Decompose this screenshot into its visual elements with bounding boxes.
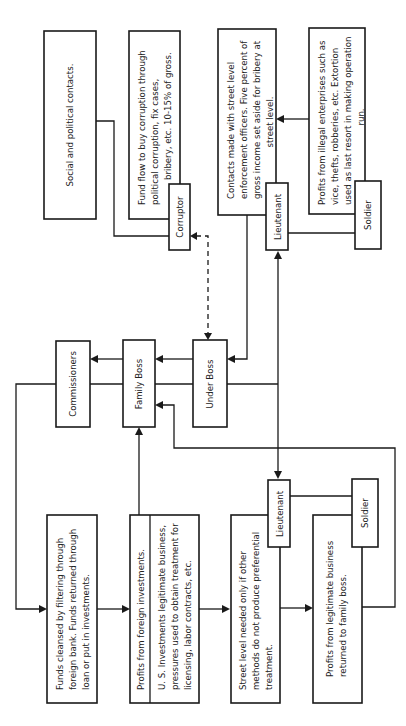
node-family-boss: Family Boss [123,340,155,427]
arrowhead-icon [222,605,230,613]
social-text: Social and political contacts. [65,64,75,187]
arrowhead-icon [39,605,47,613]
node-under-boss: Under Boss [193,340,227,427]
node-corruptor: Corruptor [169,184,190,250]
funds-cleansed-line-1: Funds cleansed by filtering through [55,538,65,690]
family-boss-label: Family Boss [134,358,144,409]
node-profits-foreign: Profits from foreign investments. U. S. … [130,515,199,703]
under-boss-label: Under Boss [205,359,215,408]
node-soldier-top: Soldier [355,181,381,249]
arrowhead-icon [204,333,212,340]
node-social: Social and political contacts. [44,31,96,219]
connector-contacts-underboss [234,215,247,359]
fund-flow-line-3: bribery, etc. 10-15% of gross. [163,52,173,180]
node-lieutenant-bottom: Lieutenant [268,480,290,547]
arrowhead-icon [305,604,313,612]
node-lieutenant-top: Lieutenant [266,183,288,250]
arrowhead-icon [155,401,163,409]
arrowhead-icon [274,471,282,479]
arrowhead-icon [227,355,235,363]
funds-cleansed-line-3: loan or put in investments. [81,574,91,690]
arrowhead-icon [135,427,143,435]
us-investments-line-1: U. S. Investments legitimate business, [157,525,167,690]
street-level-line-2: methods do not produce preferential [251,532,261,690]
us-investments-line-2: pressures used to obtain treatment for [170,523,180,690]
arrowhead-icon [274,251,282,259]
profits-illegal-line-2: vice, thefts, robberies, etc. Extortion [330,48,340,205]
profits-illegal-line-1: Profits from illegal enterprises such as [317,40,327,205]
profits-illegal-line-4: run. [356,108,366,125]
node-funds-cleansed: Funds cleansed by filtering through fore… [47,515,97,703]
soldier-bottom-label: Soldier [360,498,370,528]
commissioners-label: Commissioners [68,351,78,417]
contacts-line-1: Contacts made with street level [226,62,236,199]
corruptor-label: Corruptor [175,196,185,238]
contacts-line-2: enforcement officers. Five percent of [239,40,249,199]
node-soldier-bottom: Soldier [352,479,378,547]
funds-cleansed-line-2: foreign bank. Funds returned through [68,529,78,690]
profits-illegal-line-3: used as last resort in making operation [343,36,353,205]
lieutenant-bottom-label: Lieutenant [275,490,285,537]
node-commissioners: Commissioners [56,341,90,427]
arrowhead-icon [122,605,130,613]
fund-flow-line-1: Fund flow to buy corruption through [137,50,147,205]
fund-flow-line-2: political corruption, fix cases, [150,79,160,205]
us-investments-line-3: licensing, labor contracts, etc. [183,560,193,690]
profits-legit-line-2: returned to family boss. [338,574,348,677]
arrowhead-icon [90,355,98,363]
arrowhead-icon [276,115,284,123]
arrowhead-icon [190,232,197,240]
profits-legit-line-1: Profits from legitimate business [325,540,335,677]
soldier-top-label: Soldier [363,200,373,230]
contacts-line-4: street level. [265,96,275,147]
organized-crime-flowchart: Social and political contacts. Fund flow… [0,0,406,726]
lieutenant-top-label: Lieutenant [273,193,283,240]
arrowhead-icon [155,355,163,363]
profits-foreign-line-1: Profits from foreign investments. [136,549,146,690]
connector-corruptor-underboss [196,236,208,335]
contacts-line-3: gross income set aside for bribery at [252,40,262,199]
street-level-line-1: Street level needed only if other [238,551,248,690]
street-level-line-3: treatment. [264,644,274,690]
